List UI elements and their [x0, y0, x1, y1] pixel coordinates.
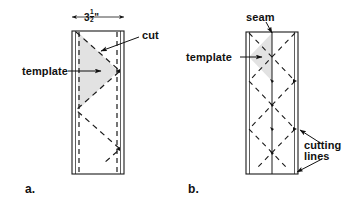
panel-a-drawing: [68, 15, 139, 174]
label-seam-b: seam: [246, 11, 275, 23]
panel-letter-a: a.: [25, 183, 35, 195]
cut-leader-a: [101, 37, 139, 51]
label-cutting-lines-b-line2: lines: [304, 151, 341, 162]
dimension-whole-a: 3: [84, 12, 90, 23]
panel-letter-b: b.: [188, 183, 199, 195]
vertex-mark-b-2: [293, 127, 297, 131]
label-template-b: template: [186, 51, 232, 63]
label-cutting-lines-b: cutting lines: [304, 140, 341, 162]
figure-root: 312" template cut a. seam template cutti…: [0, 0, 352, 206]
label-template-a: template: [22, 65, 68, 77]
figure-drawing: [0, 0, 352, 206]
dimension-label-a: 312": [84, 9, 99, 24]
label-cut-a: cut: [142, 29, 159, 41]
vertex-mark-b-1: [293, 79, 297, 83]
seam-leader-b: [266, 22, 272, 33]
dimension-unit-a: ": [94, 12, 99, 23]
